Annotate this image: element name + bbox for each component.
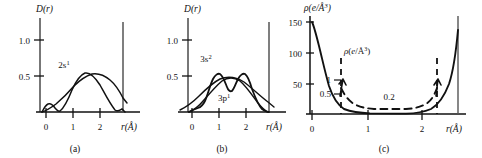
panel-c-ytick-label-150: 150 [289, 18, 303, 28]
panel-a-curve-broad [42, 74, 127, 112]
panel-c-ytick-label-50: 50 [293, 80, 303, 90]
panel-c-xlabel: r(Å) [446, 123, 462, 135]
panel-b-caption: (b) [148, 144, 296, 154]
panel-c-inset-label: ρ(e/Å3) [343, 46, 370, 56]
panel-a: D(r) 1.0 0.5 0 1 2 r(Å) 2s1 (a) [0, 0, 150, 158]
panel-c-inset-tick-label-0point5: 0.5 [320, 89, 332, 99]
panel-c-inset-tick-label-1: 1 [327, 75, 332, 85]
panel-c-caption: (c) [286, 144, 482, 154]
panel-a-plot: D(r) 1.0 0.5 0 1 2 r(Å) 2s1 [0, 0, 150, 140]
panel-a-ylabel: D(r) [35, 4, 53, 15]
panel-b-xlabel: r(Å) [266, 121, 282, 133]
panel-b-curve-label-3s: 3s2 [200, 53, 211, 65]
panel-c-xtick-label-1: 1 [366, 124, 371, 134]
panel-c-ylabel: ρ(e/Å3) [303, 2, 331, 15]
panel-a-xlabel: r(Å) [121, 121, 137, 133]
panel-b: D(r) 1.0 0.5 0 1 2 r(Å) 3s2 3p1 (b) [148, 0, 296, 158]
panel-b-xtick-label-1: 1 [217, 122, 222, 132]
figure-root: D(r) 1.0 0.5 0 1 2 r(Å) 2s1 (a) [0, 0, 482, 158]
panel-a-xtick-label-1: 1 [71, 122, 76, 132]
panel-b-xtick-label-2: 2 [244, 122, 249, 132]
panel-c-xtick-label-2: 2 [420, 124, 425, 134]
panel-a-xtick-label-2: 2 [98, 122, 103, 132]
panel-a-curve-label-2s: 2s1 [58, 59, 69, 71]
panel-b-ytick-label-1: 1.0 [167, 36, 179, 46]
panel-c-plot: ρ(e/Å3) 150 100 50 0 1 2 r(Å) ρ(e/Å3) 1 … [286, 0, 482, 140]
panel-b-plot: D(r) 1.0 0.5 0 1 2 r(Å) 3s2 3p1 [148, 0, 296, 140]
panel-b-ytick-label-2: 0.5 [167, 72, 179, 82]
panel-c-ytick-label-100: 100 [289, 49, 303, 59]
panel-b-curve-label-3p: 3p1 [218, 92, 230, 104]
panel-a-ytick-label-2: 0.5 [19, 72, 31, 82]
panel-b-ylabel: D(r) [183, 4, 201, 15]
panel-a-ytick-label-1: 1.0 [19, 36, 31, 46]
panel-b-xtick-label-0: 0 [190, 122, 195, 132]
panel-a-caption: (a) [0, 144, 150, 154]
panel-c-xtick-label-0: 0 [310, 124, 315, 134]
panel-c-annotation-0point2: 0.2 [383, 92, 394, 102]
panel-a-xtick-label-0: 0 [44, 122, 49, 132]
panel-c: ρ(e/Å3) 150 100 50 0 1 2 r(Å) ρ(e/Å3) 1 … [286, 0, 482, 158]
